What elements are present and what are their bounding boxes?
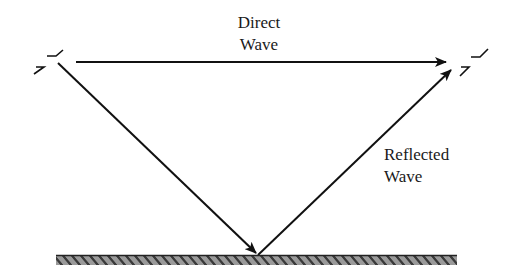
transmitter-antenna-icon [34, 50, 63, 74]
ground-surface [56, 255, 457, 265]
wave-diagram: Direct Wave Reflected Wave [0, 0, 516, 275]
reflected-wave-label-line1: Reflected [384, 145, 450, 164]
direct-wave-label-line1: Direct [238, 13, 281, 32]
direct-wave-label-line2: Wave [240, 35, 278, 54]
incident-wave-arrow [58, 63, 256, 253]
reflected-wave-label-line2: Wave [384, 167, 422, 186]
receiver-antenna-icon [460, 49, 488, 76]
